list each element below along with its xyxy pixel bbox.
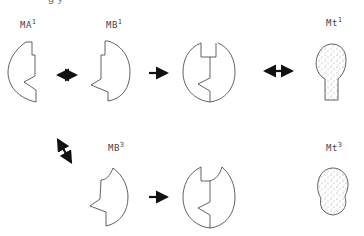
mb3-shape <box>90 168 128 226</box>
mb1-shape <box>91 41 130 101</box>
complex1-shape <box>183 43 235 102</box>
diagram-canvas <box>0 0 364 236</box>
mt1-shape <box>316 44 346 100</box>
double-arrow-ma1-mb3 <box>58 140 71 162</box>
ma1-shape <box>8 42 36 102</box>
complex3-shape <box>183 167 235 228</box>
mt3-shape <box>318 168 348 215</box>
